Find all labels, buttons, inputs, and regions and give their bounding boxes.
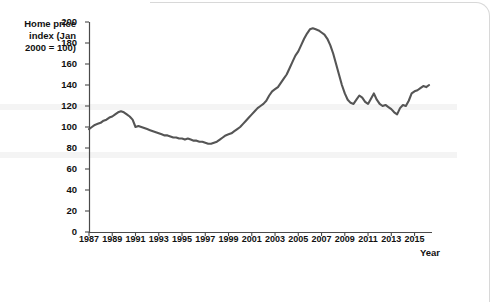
x-axis-tick-label: 1999 bbox=[216, 234, 242, 244]
x-axis-tick-label: 1987 bbox=[76, 234, 102, 244]
y-axis-tick-label: 140 bbox=[53, 80, 77, 90]
data-series-line bbox=[89, 28, 429, 144]
x-axis-tick-label: 2009 bbox=[332, 234, 358, 244]
y-axis-tick-label: 80 bbox=[53, 143, 77, 153]
y-axis-tick-label: 180 bbox=[53, 38, 77, 48]
y-axis-ticks bbox=[85, 22, 89, 232]
x-axis-tick-label: 1989 bbox=[99, 234, 125, 244]
y-axis-tick-label: 100 bbox=[53, 122, 77, 132]
y-axis-tick-label: 40 bbox=[53, 185, 77, 195]
y-axis-tick-label: 200 bbox=[53, 17, 77, 27]
x-axis-tick-label: 1997 bbox=[192, 234, 218, 244]
y-axis-tick-label: 0 bbox=[53, 227, 77, 237]
x-axis-tick-label: 2001 bbox=[239, 234, 265, 244]
x-axis-tick-label: 2015 bbox=[402, 234, 428, 244]
y-axis-tick-label: 20 bbox=[53, 206, 77, 216]
x-axis-tick-label: 2011 bbox=[355, 234, 381, 244]
x-axis-tick-label: 2005 bbox=[285, 234, 311, 244]
x-axis-tick-label: 2007 bbox=[309, 234, 335, 244]
y-axis-tick-label: 160 bbox=[53, 59, 77, 69]
x-axis-tick-label: 1991 bbox=[123, 234, 149, 244]
y-axis-tick-label: 60 bbox=[53, 164, 77, 174]
y-axis-tick-label: 120 bbox=[53, 101, 77, 111]
x-axis-tick-label: 2013 bbox=[378, 234, 404, 244]
x-axis-tick-label: 1995 bbox=[169, 234, 195, 244]
x-axis-tick-label: 1993 bbox=[146, 234, 172, 244]
x-axis-tick-label: 2003 bbox=[262, 234, 288, 244]
